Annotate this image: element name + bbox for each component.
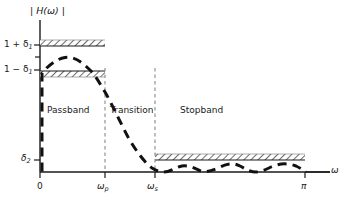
x-tick-label-zero: 0	[37, 182, 43, 191]
x-tick-label-pi-main: π	[301, 181, 306, 191]
region-label-stopband: Stopband	[180, 106, 223, 115]
y-tick-label-one-minus-delta1-main: 1 − δ	[4, 64, 29, 74]
x-tick-label-omega-p: ωp	[97, 182, 109, 193]
x-tick-label-omega-s: ωs	[147, 182, 158, 193]
y-tick-label-one-plus-delta1: 1 + δ1	[4, 40, 33, 51]
region-label-transition: Transition	[110, 106, 154, 115]
y-tick-label-one-minus-delta1-sub: 1	[29, 68, 33, 76]
y-tick-label-one-plus-delta1-sub: 1	[29, 43, 33, 51]
region-label-passband: Passband	[47, 106, 90, 115]
y-tick-label-one-plus-delta1-main: 1 + δ	[4, 39, 29, 49]
x-tick-label-omega-s-sub: s	[155, 185, 158, 193]
y-axis-title: | H(ω) |	[30, 6, 65, 16]
x-tick-label-pi: π	[301, 182, 306, 191]
passband-upper-tolerance-band	[40, 40, 105, 46]
y-tick-label-one-minus-delta1: 1 − δ1	[4, 65, 33, 76]
stopband-tolerance-band	[155, 154, 305, 160]
x-axis-name-label: ω	[331, 166, 339, 175]
x-tick-label-omega-p-sub: p	[105, 185, 109, 193]
y-tick-label-delta2-sub: 2	[27, 157, 31, 165]
filter-specification-figure: | H(ω) | 1 + δ1 1 − δ1 δ2 0 ωp ωs π ω Pa…	[0, 0, 345, 204]
passband-lower-tolerance-band	[40, 71, 105, 77]
x-tick-label-omega-p-main: ω	[97, 181, 105, 191]
plot-canvas	[0, 0, 345, 204]
y-tick-label-delta2: δ2	[21, 154, 31, 165]
x-tick-label-omega-s-main: ω	[147, 181, 155, 191]
